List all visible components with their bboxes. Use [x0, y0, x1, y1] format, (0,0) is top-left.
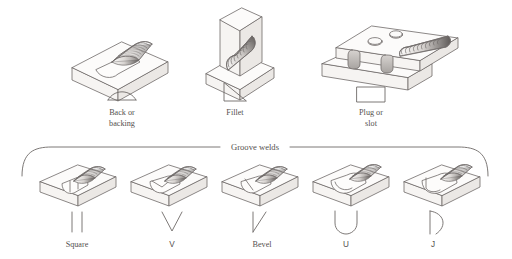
symbol-v: [162, 212, 182, 231]
label-plug-or-slot-line2: slot: [365, 119, 378, 128]
label-back-or-backing-line2: backing: [109, 119, 135, 128]
label-v: V: [169, 240, 175, 249]
label-bevel: Bevel: [252, 240, 272, 249]
symbol-u: [335, 211, 357, 234]
illustration-fillet: [206, 8, 274, 100]
symbol-j: [430, 211, 443, 234]
illustration-v-groove: [131, 165, 207, 206]
illustration-j-groove: [404, 165, 480, 206]
symbol-bevel: [253, 212, 266, 232]
weld-types-diagram: Groove welds: [0, 0, 512, 259]
illustration-square-groove: [40, 165, 116, 206]
label-plug-or-slot-line1: Plug or: [359, 108, 383, 117]
label-square: Square: [66, 240, 89, 249]
label-u: U: [343, 240, 349, 249]
label-back-or-backing-line1: Back or: [109, 108, 135, 117]
label-fillet: Fillet: [226, 108, 244, 117]
illustration-bevel-groove: [222, 165, 298, 206]
illustration-u-groove: [313, 165, 389, 206]
label-j: J: [431, 240, 435, 249]
illustration-plug-or-slot: [322, 26, 458, 90]
groove-welds-title: Groove welds: [231, 142, 280, 152]
symbol-square: [72, 212, 82, 232]
symbol-plug-or-slot: [357, 87, 385, 102]
